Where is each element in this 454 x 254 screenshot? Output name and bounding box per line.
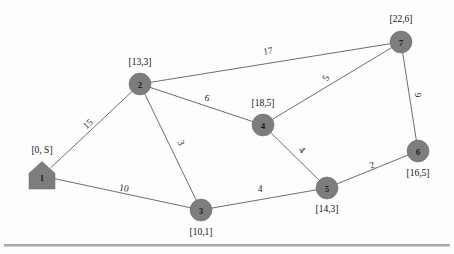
graph-edge-1-2 — [51, 91, 133, 168]
node-tag-3: [10,1] — [190, 227, 213, 237]
node-tag-5: [14,3] — [316, 204, 339, 214]
edge-weight-1-3: 10 — [118, 182, 129, 194]
edge-weight-2-4: 6 — [203, 93, 211, 104]
node-label-4: 4 — [261, 121, 266, 131]
node-label-5: 5 — [325, 184, 330, 194]
edges-layer — [51, 44, 417, 209]
node-tag-7: [22,6] — [390, 14, 413, 24]
diagram-canvas: 1234567 1510361744526 [0, S][13,3][10,1]… — [0, 0, 454, 254]
node-tag-4: [18,5] — [252, 98, 275, 108]
graph-node-2[interactable]: 2 — [129, 73, 151, 95]
node-label-7: 7 — [399, 38, 404, 48]
edge-weight-4-5: 4 — [297, 145, 308, 156]
graph-node-1[interactable]: 1 — [29, 161, 55, 189]
edge-weight-6-7: 6 — [413, 92, 423, 97]
graph-edge-3-5 — [211, 190, 317, 209]
edge-weight-2-7: 17 — [263, 45, 274, 56]
graph-node-7[interactable]: 7 — [390, 31, 412, 53]
graph-edge-4-7 — [272, 47, 393, 120]
graph-node-4[interactable]: 4 — [252, 114, 274, 136]
edge-weight-2-3: 3 — [175, 139, 186, 148]
graph-node-6[interactable]: 6 — [407, 140, 429, 162]
edge-weight-4-7: 5 — [320, 73, 331, 82]
node-label-6: 6 — [416, 147, 421, 157]
node-label-3: 3 — [199, 206, 204, 216]
edge-weights-layer: 1510361744526 — [81, 45, 423, 194]
node-tag-6: [16,5] — [407, 168, 430, 178]
graph-node-5[interactable]: 5 — [316, 177, 338, 199]
graph-node-3[interactable]: 3 — [190, 199, 212, 221]
graph-edge-2-4 — [149, 87, 253, 122]
graph-edge-4-5 — [270, 132, 320, 181]
node-tag-1: [0, S] — [31, 145, 52, 155]
edge-weight-5-6: 2 — [368, 159, 376, 170]
node-label-1: 1 — [40, 173, 45, 183]
graph-edge-2-3 — [144, 93, 196, 201]
footer-divider — [4, 244, 450, 247]
node-label-2: 2 — [138, 80, 143, 90]
node-tag-2: [13,3] — [129, 57, 152, 67]
graph-svg: 1234567 1510361744526 [0, S][13,3][10,1]… — [0, 0, 454, 254]
edge-weight-3-5: 4 — [258, 184, 263, 194]
